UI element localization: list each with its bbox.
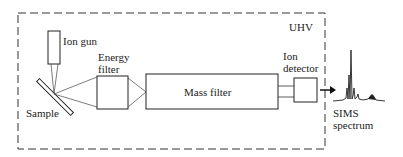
ion-detector-label-1: Ion — [283, 50, 298, 62]
energy-filter — [97, 76, 128, 109]
ion-detector-label-2: detector — [283, 62, 318, 74]
energy-filter-label-1: Energy — [98, 51, 130, 63]
ion-path — [128, 92, 146, 107]
sims-spectrum-fill — [368, 94, 376, 100]
secondary-ion-path — [54, 77, 97, 94]
sample-label: Sample — [26, 107, 59, 119]
ion-beam — [51, 64, 54, 94]
energy-filter-label-2: filter — [98, 63, 119, 75]
arrow-head-icon — [330, 86, 336, 94]
sims-diagram — [0, 0, 403, 157]
uhv-label: UHV — [289, 21, 313, 33]
spectrum-label-2: spectrum — [333, 119, 373, 131]
sims-spectrum-trace — [333, 50, 385, 101]
ion-detector — [294, 78, 317, 102]
spectrum-label-1: SIMS — [333, 107, 359, 119]
ion-path — [128, 78, 146, 92]
ion-gun — [48, 31, 60, 64]
ion-beam — [54, 64, 58, 94]
mass-filter-label: Mass filter — [184, 86, 231, 98]
ion-gun-label: Ion gun — [63, 35, 97, 47]
